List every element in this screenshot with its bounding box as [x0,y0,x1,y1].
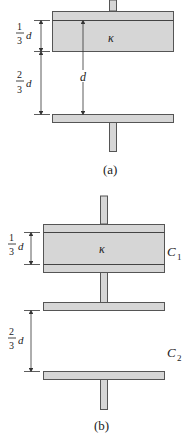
bottom-stem-a [110,123,117,152]
figure-b: κ 1 3 d 2 3 d C 1 C 2 (b) [8,196,182,433]
d-label-a: d [80,70,87,84]
caption-b: (b) [94,418,109,433]
svg-text:2: 2 [177,353,182,363]
kappa-label-b: κ [99,242,105,256]
svg-text:2: 2 [17,69,22,80]
middle-stem-b [101,273,108,303]
svg-text:1: 1 [9,232,14,243]
figure-a: κ d 1 3 d 2 3 d (a) [16,0,174,177]
bottom-stem-b [101,380,108,410]
c2-label: C [167,345,176,360]
bottom-plate-b [44,372,165,380]
svg-text:3: 3 [17,35,22,46]
middle-plate-b [44,303,165,311]
top-stem-b [101,196,108,224]
kappa-label-a: κ [108,31,114,45]
svg-text:1: 1 [17,21,22,32]
svg-text:3: 3 [9,340,14,351]
svg-text:1: 1 [177,252,182,262]
svg-text:d: d [26,29,32,41]
capacitor-diagram: κ d 1 3 d 2 3 d (a) κ [0,0,193,436]
svg-text:3: 3 [17,84,22,95]
c1-label: C [167,244,176,259]
svg-text:3: 3 [9,246,14,257]
svg-text:d: d [26,77,32,89]
svg-text:2: 2 [9,326,14,337]
svg-text:d: d [18,334,24,346]
bottom-plate-a [53,115,174,123]
caption-a: (a) [103,162,117,177]
svg-text:d: d [18,240,24,252]
top-stem-a [110,0,117,11]
